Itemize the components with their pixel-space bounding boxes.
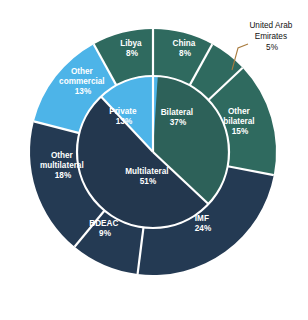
donut-chart-figure: Libya 8% China 8% Other bilateral 15% IM… [0,0,308,320]
donut-chart-svg: Libya 8% China 8% Other bilateral 15% IM… [0,0,308,320]
